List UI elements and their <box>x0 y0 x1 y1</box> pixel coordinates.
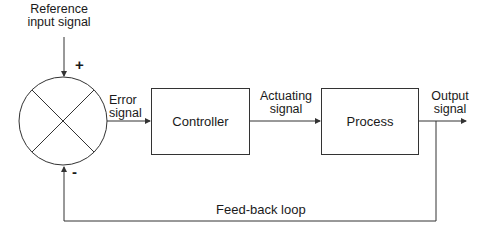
error-signal-label: Error signal <box>109 94 142 120</box>
process-block: Process <box>321 88 419 155</box>
error-signal-label-line2: signal <box>109 107 142 120</box>
output-signal-label-line2: signal <box>425 103 475 116</box>
reference-input-label: Reference input signal <box>14 3 104 29</box>
actuating-signal-label: Actuating signal <box>256 90 316 116</box>
controller-block: Controller <box>151 88 250 155</box>
actuating-signal-label-line2: signal <box>256 103 316 116</box>
feedback-loop-label: Feed-back loop <box>216 203 306 216</box>
minus-sign: - <box>72 163 77 180</box>
plus-sign: + <box>75 56 84 73</box>
reference-input-label-line2: input signal <box>14 16 104 29</box>
controller-block-label: Controller <box>172 114 228 129</box>
output-signal-label: Output signal <box>425 90 475 116</box>
process-block-label: Process <box>347 114 394 129</box>
